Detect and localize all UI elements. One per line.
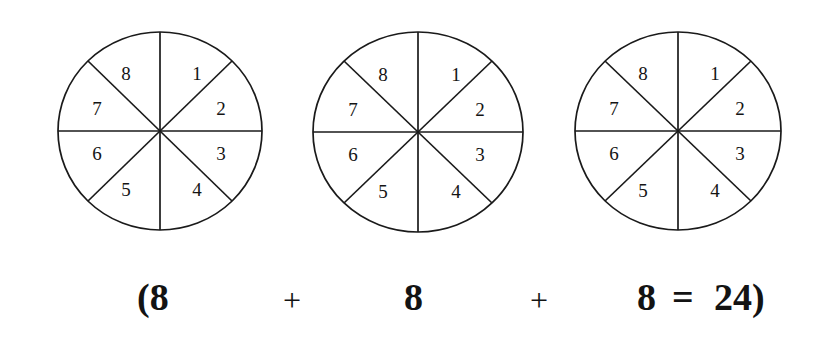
sector-label-2: 2	[475, 99, 485, 120]
sector-label-2: 2	[216, 98, 226, 119]
pie-circle-2: 1 2 3 4 5 6 7 8	[310, 28, 533, 240]
sector-label-2: 2	[735, 98, 745, 119]
equation-addend-second: 8	[404, 278, 423, 316]
circles-row: 1 2 3 4 5 6 7 8 1 2 3 4 5	[0, 0, 834, 260]
sector-label-6: 6	[609, 143, 619, 164]
sector-label-1: 1	[192, 63, 202, 84]
equation-plus-second: +	[530, 284, 548, 316]
sector-label-5: 5	[638, 180, 648, 201]
equation-sum-result: 24)	[714, 278, 765, 316]
sector-label-8: 8	[638, 63, 648, 84]
pie-circle-3-svg: 1 2 3 4 5 6 7 8	[572, 28, 790, 238]
equation-row: (8 + 8 + 8 = 24)	[0, 262, 834, 342]
sector-label-1: 1	[451, 64, 461, 85]
sector-label-3: 3	[216, 143, 226, 164]
figure-canvas: 1 2 3 4 5 6 7 8 1 2 3 4 5	[0, 0, 834, 342]
sector-label-4: 4	[710, 180, 720, 201]
sector-label-8: 8	[121, 63, 131, 84]
sector-label-6: 6	[92, 143, 102, 164]
sector-label-5: 5	[378, 181, 388, 202]
sector-label-7: 7	[348, 99, 358, 120]
equation-addend-third: 8	[637, 278, 656, 316]
sector-label-4: 4	[451, 181, 461, 202]
pie-circle-1-svg: 1 2 3 4 5 6 7 8	[55, 28, 271, 238]
pie-circle-2-svg: 1 2 3 4 5 6 7 8	[310, 28, 533, 240]
pie-circle-3: 1 2 3 4 5 6 7 8	[572, 28, 790, 238]
sector-label-8: 8	[378, 64, 388, 85]
sector-label-3: 3	[475, 144, 485, 165]
equation-open-paren-eight: (8	[137, 278, 169, 316]
sector-label-3: 3	[735, 143, 745, 164]
equation-equals-sign: =	[672, 278, 694, 316]
sector-label-4: 4	[192, 179, 202, 200]
sector-label-6: 6	[348, 144, 358, 165]
sector-label-5: 5	[121, 179, 131, 200]
sector-label-1: 1	[710, 63, 720, 84]
equation-plus-first: +	[283, 284, 301, 316]
sector-label-7: 7	[609, 98, 619, 119]
sector-label-7: 7	[92, 98, 102, 119]
pie-circle-1: 1 2 3 4 5 6 7 8	[55, 28, 271, 238]
